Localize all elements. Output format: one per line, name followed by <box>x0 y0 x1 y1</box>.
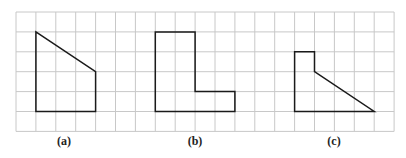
grid-lines <box>16 12 394 131</box>
label-a: (a) <box>44 134 84 149</box>
label-c: (c) <box>314 134 354 149</box>
label-b: (b) <box>175 134 215 149</box>
